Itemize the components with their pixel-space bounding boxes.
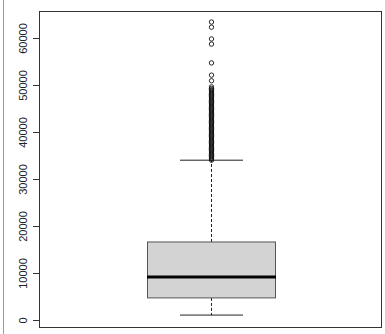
y-tick-label: 30000 (17, 164, 29, 195)
y-tick-label: 10000 (17, 258, 29, 289)
y-axis: 0100002000030000400005000060000 (17, 23, 40, 323)
y-tick-label: 50000 (17, 70, 29, 101)
iqr-box (148, 242, 276, 298)
outlier-point (209, 42, 213, 46)
y-tick-label: 20000 (17, 211, 29, 242)
outlier-point (209, 20, 213, 24)
outliers (209, 20, 213, 163)
outlier-point (209, 25, 213, 29)
y-tick-label: 40000 (17, 117, 29, 148)
outlier-point (209, 61, 213, 65)
outlier-point (209, 37, 213, 41)
y-tick-label: 60000 (17, 23, 29, 54)
outlier-point (209, 73, 213, 77)
box (147, 160, 276, 315)
outlier-point (209, 79, 213, 83)
y-tick-label: 0 (17, 317, 29, 323)
boxplot-chart: 0100002000030000400005000060000 (0, 0, 385, 334)
